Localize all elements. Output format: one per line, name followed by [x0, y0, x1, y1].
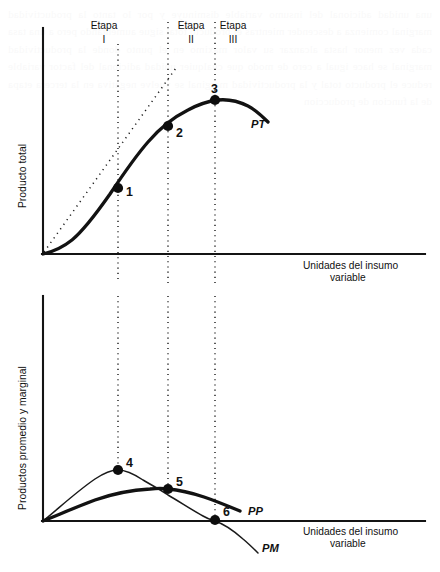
top-panel-x-axis-title-line2: variable — [330, 272, 366, 283]
point-4-marker — [113, 465, 123, 475]
pt-curve-label: PT — [251, 118, 266, 130]
total-product-curve — [43, 100, 268, 254]
point-1-label: 1 — [126, 185, 133, 199]
stage-1-numeral: I — [103, 34, 106, 45]
stage-2-name: Etapa — [178, 20, 205, 31]
point-2-marker — [163, 121, 173, 131]
top-panel-y-axis-title: Producto total — [17, 144, 28, 208]
top-panel: 1 2 3 PT Producto total Unidades del ins… — [17, 22, 425, 283]
point-4-label: 4 — [126, 456, 133, 470]
pm-curve-label: PM — [262, 542, 279, 554]
stage-3-numeral: III — [229, 34, 238, 45]
point-3-label: 3 — [211, 82, 218, 96]
stage-label-group-1: Etapa I — [91, 20, 118, 45]
average-product-curve — [43, 488, 240, 521]
top-panel-x-axis-title-line1: Unidades del insumo — [303, 260, 398, 271]
stage-label-group-2: Etapa II — [178, 20, 205, 45]
production-function-figure: Etapa I Etapa II Etapa III 1 — [0, 0, 440, 572]
point-6-marker — [210, 515, 220, 525]
bottom-panel: 4 5 6 PP PM Productos promedio y margina… — [17, 296, 425, 554]
stage-2-numeral: II — [188, 34, 194, 45]
stage-3-name: Etapa — [220, 20, 247, 31]
stage-label-group-3: Etapa III — [220, 20, 247, 45]
top-panel-tangent-ray — [44, 68, 176, 252]
point-3-marker — [210, 95, 220, 105]
bottom-panel-x-axis-title-line2: variable — [330, 538, 366, 549]
bottom-panel-y-axis-title: Productos promedio y marginal — [17, 366, 28, 510]
pp-curve-label: PP — [248, 505, 263, 517]
point-6-label: 6 — [223, 505, 230, 519]
point-5-marker — [163, 484, 173, 494]
point-1-marker — [113, 183, 123, 193]
point-5-label: 5 — [176, 475, 183, 489]
stage-1-name: Etapa — [91, 20, 118, 31]
point-2-label: 2 — [176, 126, 183, 140]
bottom-panel-x-axis-title-line1: Unidades del insumo — [303, 526, 398, 537]
